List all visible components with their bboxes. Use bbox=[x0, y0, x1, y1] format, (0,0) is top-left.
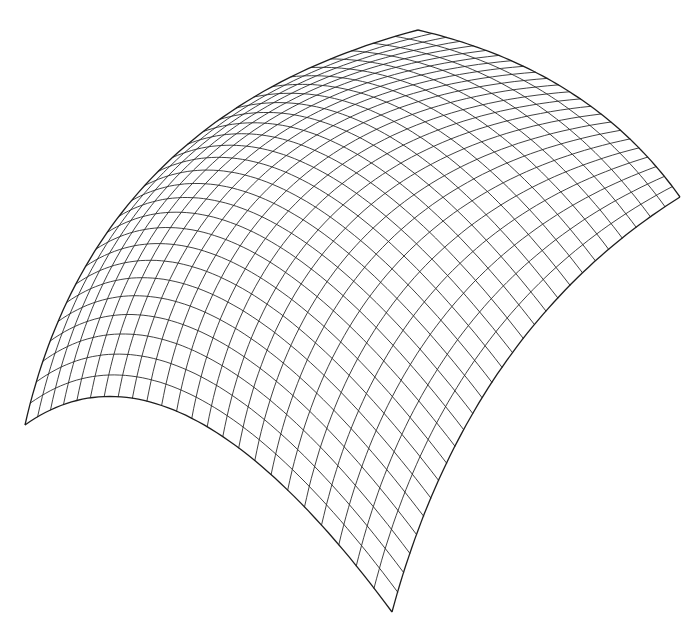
saddle-surface-mesh bbox=[0, 0, 694, 632]
mesh-line-v bbox=[43, 334, 410, 553]
mesh-line-v bbox=[119, 198, 473, 414]
mesh-line-v bbox=[30, 375, 397, 592]
mesh-line-v bbox=[36, 354, 403, 572]
mesh-line-v bbox=[237, 103, 558, 298]
mesh-line-u bbox=[207, 99, 580, 427]
mesh-line-u bbox=[147, 72, 536, 401]
mesh-line-v bbox=[272, 84, 582, 272]
mesh-lines-v-direction bbox=[30, 36, 665, 592]
mesh-line-v bbox=[220, 113, 546, 312]
mesh-lines-u-direction bbox=[38, 34, 673, 589]
mesh-line-u bbox=[239, 114, 601, 448]
mesh-line-u bbox=[38, 34, 433, 417]
mesh-line-u bbox=[322, 157, 648, 525]
mesh-line-u bbox=[356, 176, 664, 565]
mesh-line-v bbox=[254, 93, 570, 285]
wireframe-figure bbox=[0, 0, 694, 632]
mesh-line-v bbox=[145, 170, 492, 382]
mesh-line-v bbox=[331, 59, 622, 238]
mesh-line-v bbox=[50, 315, 416, 535]
mesh-line-v bbox=[25, 396, 392, 612]
mesh-line-u bbox=[305, 148, 639, 507]
mesh-line-v bbox=[67, 278, 431, 498]
mesh-line-u bbox=[192, 92, 570, 419]
mesh-line-v bbox=[58, 296, 423, 516]
mesh-line-u bbox=[392, 197, 680, 612]
